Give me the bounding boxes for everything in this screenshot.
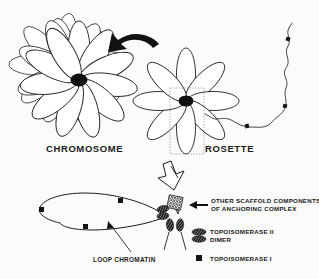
hollow-down-arrow-icon xyxy=(158,161,184,190)
loop-pointer-arrow-icon xyxy=(107,221,131,252)
legend-item-topoisomerase-1: TOPOISOMERASE I xyxy=(196,255,272,262)
single-rosette xyxy=(133,48,239,154)
topo2-dimer-shape xyxy=(166,218,174,231)
topo1-marker-loop xyxy=(83,224,88,229)
topo1-marker-fiber xyxy=(283,104,288,109)
legend: TOPOISOMERASE II DIMER TOPOISOMERASE I xyxy=(192,228,274,262)
figure-root: CHROMOSOME ROSETTE xyxy=(0,0,319,279)
topo1-legend-icon xyxy=(196,255,202,261)
anchoring-complex xyxy=(156,195,186,250)
topo2-legend-icon xyxy=(192,229,206,235)
scaffold-callout-line2: OF ANCHORING COMPLEX xyxy=(211,205,297,212)
topo1-marker-loop xyxy=(39,207,44,212)
chromosome-hub xyxy=(71,74,88,87)
legend-item-topoisomerase-2: TOPOISOMERASE II DIMER xyxy=(192,228,274,243)
topo2-dimer-shape xyxy=(176,218,184,231)
loop-chromatin-structure xyxy=(39,193,160,230)
topo1-marker-fiber xyxy=(285,36,290,41)
topo2-dimer-shape xyxy=(157,212,170,220)
curved-arrow-icon xyxy=(108,33,159,52)
legend-label-topo2-line2: DIMER xyxy=(210,236,231,243)
topo1-marker-loop xyxy=(118,198,123,203)
chromatin-loop-diagram: CHROMOSOME ROSETTE xyxy=(0,0,319,279)
chromosome-label: CHROMOSOME xyxy=(46,143,123,154)
chromosome-cluster xyxy=(9,12,139,140)
scaffold-callout-line1: OTHER SCAFFOLD COMPONENTS xyxy=(211,197,319,204)
legend-label-topo1: TOPOISOMERASE I xyxy=(210,255,272,262)
loop-chromatin-label: LOOP CHROMATIN xyxy=(93,256,156,263)
rosette-hub xyxy=(179,96,194,107)
left-pointing-arrow-icon xyxy=(189,201,208,209)
legend-label-topo2-line1: TOPOISOMERASE II xyxy=(210,228,274,235)
topo2-legend-icon xyxy=(192,236,206,242)
rosette-label: ROSETTE xyxy=(205,143,254,154)
topo1-marker-fiber xyxy=(245,124,250,129)
